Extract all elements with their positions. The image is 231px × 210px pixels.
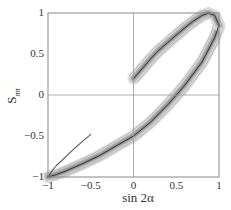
x-tick-label: 1 [204, 180, 231, 191]
band-contour-b-main-loop-lower [44, 22, 215, 174]
x-axis-label: sin 2α [108, 190, 168, 206]
zero-lines [48, 13, 219, 177]
band-outer2-main-loop-lower [50, 26, 221, 178]
y-axis-label-main: S [4, 96, 19, 103]
band-edge-main-loop-lower [47, 24, 218, 176]
y-tick-label: −0.5 [10, 130, 44, 141]
x-tick-label: −0.5 [76, 180, 106, 191]
y-axis-label: Sππ [4, 84, 24, 108]
band-contour-a-main-loop-lower [52, 28, 223, 180]
y-tick-label: 1 [10, 7, 44, 18]
x-tick-label: −1 [33, 180, 63, 191]
y-tick-label: 0.5 [10, 48, 44, 59]
y-axis-label-sub: ππ [13, 88, 22, 96]
